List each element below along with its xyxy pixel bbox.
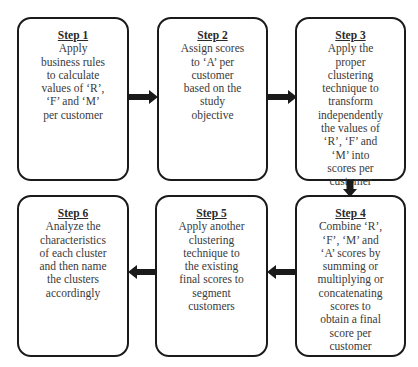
step-1-text: Apply business rules to calculate values… (19, 42, 127, 122)
step-2-text: Assign scores to ‘A’ per customer based … (159, 42, 266, 122)
step-3-box: Step 3 Apply the proper clustering techn… (295, 17, 406, 181)
step-6-title: Step 6 (19, 207, 127, 220)
arrow-left-icon (128, 265, 157, 279)
step-5-title: Step 5 (157, 207, 266, 220)
arrow-down-icon (343, 180, 357, 197)
step-6-box: Step 6 Analyze the characteristics of ea… (17, 195, 129, 357)
step-3-title: Step 3 (297, 29, 404, 42)
step-6-text: Analyze the characteristics of each clus… (19, 220, 127, 300)
step-1-box: Step 1 Apply business rules to calculate… (17, 17, 129, 181)
step-5-text: Apply another clustering technique to th… (157, 220, 266, 313)
arrow-right-icon (267, 90, 297, 104)
step-5-box: Step 5 Apply another clustering techniqu… (155, 195, 268, 357)
step-2-box: Step 2 Assign scores to ‘A’ per customer… (157, 17, 268, 181)
step-1-title: Step 1 (19, 29, 127, 42)
step-4-box: Step 4 Combine ‘R’, ‘F’, ‘M’ and ‘A’ sco… (295, 195, 406, 357)
step-2-title: Step 2 (159, 29, 266, 42)
arrow-left-icon (267, 265, 297, 279)
step-3-text: Apply the proper clustering technique to… (297, 42, 404, 188)
arrow-right-icon (128, 90, 158, 104)
step-4-title: Step 4 (297, 207, 404, 220)
step-4-text: Combine ‘R’, ‘F’, ‘M’ and ‘A’ scores by … (297, 220, 404, 353)
